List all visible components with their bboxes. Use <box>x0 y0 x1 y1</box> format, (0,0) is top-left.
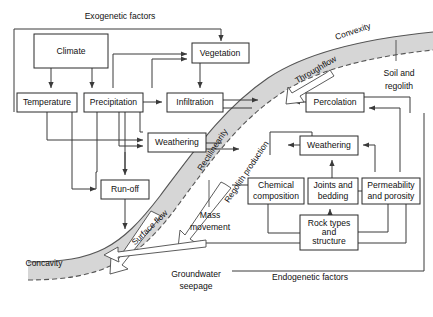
box-climate[interactable]: Climate <box>34 34 108 68</box>
box-climate-label: Climate <box>56 46 85 56</box>
groundwater-seepage-label-line2: seepage <box>180 281 213 291</box>
convexity-label: Convexity <box>334 20 373 42</box>
box-infiltration-label: Infiltration <box>176 97 213 107</box>
box-weathering-left-label: Weathering <box>155 137 199 147</box>
box-permeability-and-porosity[interactable]: Permeability and porosity <box>362 178 420 204</box>
box-temperature[interactable]: Temperature <box>17 93 77 112</box>
box-joints-and-bedding-line2: bedding <box>318 191 349 201</box>
soil-regolith-label-line2: regolith <box>385 81 413 91</box>
box-runoff-label: Run-off <box>111 184 140 194</box>
box-chemical-composition-line2: composition <box>253 191 299 201</box>
box-weathering-right-label: Weathering <box>307 140 351 150</box>
box-permeability-line2: and porosity <box>368 191 416 201</box>
box-rock-types-and-structure[interactable]: Rock types and structure <box>300 215 358 250</box>
box-chemical-composition[interactable]: Chemical composition <box>248 178 304 204</box>
box-chemical-composition-line1: Chemical <box>258 180 294 190</box>
endogenetic-factors-label: Endogenetic factors <box>272 272 348 282</box>
box-joints-and-bedding-line1: Joints and <box>313 180 352 190</box>
box-percolation-label: Percolation <box>314 97 357 107</box>
exogenetic-factors-label: Exogenetic factors <box>85 11 156 21</box>
slope-system-diagram: Exogenetic factors Endogenetic factors <box>0 0 433 317</box>
mass-movement-label-line2: movement <box>190 222 231 232</box>
groundwater-seepage-label-line1: Groundwater <box>171 269 221 279</box>
box-weathering-left[interactable]: Weathering <box>148 133 206 152</box>
box-temperature-label: Temperature <box>23 97 71 107</box>
box-vegetation-label: Vegetation <box>200 48 241 58</box>
box-rock-types-line3: structure <box>312 236 346 246</box>
box-precipitation[interactable]: Precipitation <box>84 93 143 112</box>
box-joints-and-bedding[interactable]: Joints and bedding <box>308 178 358 204</box>
mass-movement-label-line1: Mass <box>200 210 221 220</box>
box-weathering-right[interactable]: Weathering <box>300 136 358 155</box>
box-runoff[interactable]: Run-off <box>101 180 149 199</box>
box-infiltration[interactable]: Infiltration <box>167 93 223 112</box>
box-vegetation[interactable]: Vegetation <box>192 43 249 63</box>
concavity-label: Concavity <box>26 258 64 268</box>
soil-regolith-label-line1: Soil and <box>383 68 414 78</box>
diagram-canvas: Exogenetic factors Endogenetic factors <box>0 0 433 317</box>
box-precipitation-label: Precipitation <box>90 97 138 107</box>
box-permeability-line1: Permeability <box>367 180 415 190</box>
box-percolation[interactable]: Percolation <box>306 93 364 112</box>
